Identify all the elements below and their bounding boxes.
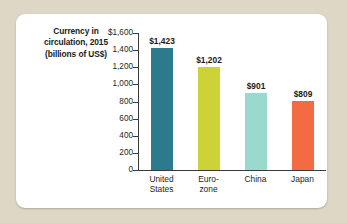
y-axis-tick-label: 1,400 [91,45,133,54]
y-axis-tick [133,50,138,51]
x-axis-category-label-line: China [232,174,279,184]
y-axis-tick [133,170,138,171]
y-axis-tick-label: 1,000 [91,79,133,88]
y-axis-tick [133,84,138,85]
bar-value-label: $1,423 [138,36,186,46]
y-axis-tick [133,153,138,154]
bar-value-label: $901 [232,81,280,91]
plot-area: $1,6001,4001,2001,0008006004002000 $1,42… [16,14,327,208]
y-axis-tick-label: 400 [91,131,133,140]
y-axis-line [138,33,139,171]
x-axis-category-label-line: zone [185,184,232,194]
bar-euro-zone [198,67,220,170]
x-axis-category-label-line: United [138,174,185,184]
y-axis-tick-label: 800 [91,97,133,106]
y-axis-tick [133,67,138,68]
x-axis-category-label: UnitedStates [138,174,185,194]
bar-united-states [151,48,173,170]
y-axis-tick [133,119,138,120]
bar-value-label: $809 [279,89,327,99]
y-axis-tick [133,102,138,103]
x-axis-category-label: China [232,174,279,184]
bar-value-label: $1,202 [185,55,233,65]
y-axis-tick-label: 0 [91,165,133,174]
y-axis-tick [133,33,138,34]
x-axis-category-label-line: Euro- [185,174,232,184]
bar-china [245,93,267,170]
bar-japan [292,101,314,170]
x-axis-category-label-line: States [138,184,185,194]
y-axis-tick-label: 1,200 [91,62,133,71]
x-axis-category-label: Euro-zone [185,174,232,194]
y-axis-tick-label: $1,600 [91,28,133,37]
y-axis-tick-label: 200 [91,148,133,157]
x-axis-category-label: Japan [279,174,326,184]
y-axis-tick-label: 600 [91,114,133,123]
x-axis-line [138,170,326,171]
y-axis-tick [133,136,138,137]
figure-card: Currency in circulation, 2015 (billions … [16,14,327,208]
x-axis-category-label-line: Japan [279,174,326,184]
